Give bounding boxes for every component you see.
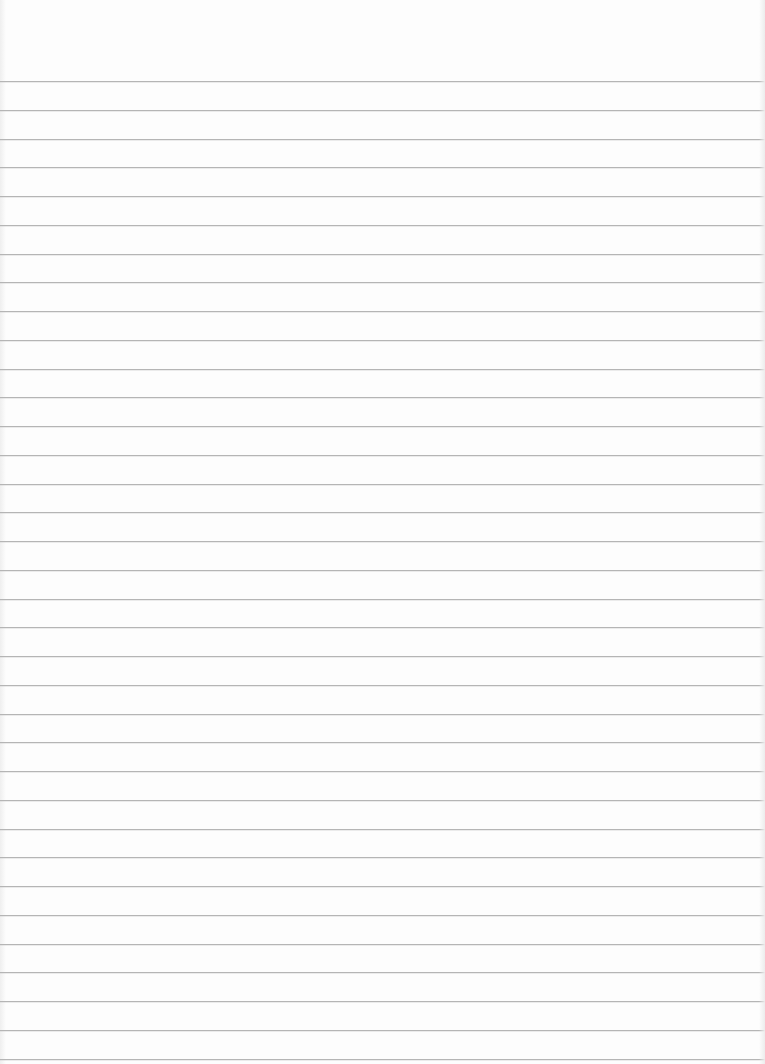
ruled-line: [0, 311, 765, 312]
ruled-line: [0, 196, 765, 197]
ruled-line: [0, 800, 765, 801]
ruled-line: [0, 167, 765, 168]
ruled-line: [0, 599, 765, 600]
lined-paper-sheet: [0, 0, 765, 1064]
ruled-line: [0, 742, 765, 743]
ruled-line: [0, 81, 765, 82]
ruled-line: [0, 627, 765, 628]
ruled-line: [0, 484, 765, 485]
ruled-line: [0, 369, 765, 370]
ruled-line: [0, 685, 765, 686]
ruled-line: [0, 512, 765, 513]
ruled-line: [0, 1001, 765, 1002]
ruled-line: [0, 1030, 765, 1031]
ruled-line: [0, 541, 765, 542]
ruled-line: [0, 397, 765, 398]
ruled-line: [0, 282, 765, 283]
ruled-line: [0, 110, 765, 111]
ruled-line: [0, 254, 765, 255]
ruled-line: [0, 829, 765, 830]
ruled-line: [0, 972, 765, 973]
ruled-line: [0, 1059, 765, 1060]
ruled-line: [0, 714, 765, 715]
ruled-line: [0, 426, 765, 427]
ruled-line: [0, 944, 765, 945]
ruled-line: [0, 340, 765, 341]
ruled-line: [0, 570, 765, 571]
ruled-line: [0, 857, 765, 858]
ruled-line: [0, 886, 765, 887]
ruled-line: [0, 771, 765, 772]
ruled-line: [0, 915, 765, 916]
ruled-line: [0, 455, 765, 456]
ruled-line: [0, 225, 765, 226]
ruled-line: [0, 656, 765, 657]
ruled-line: [0, 139, 765, 140]
